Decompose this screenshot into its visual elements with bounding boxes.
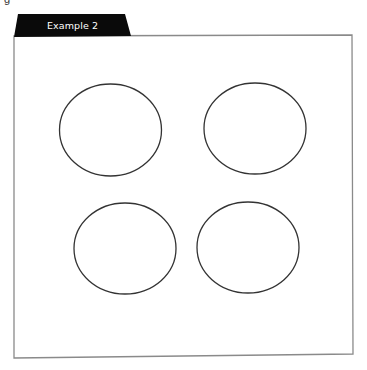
diagram-canvas: g Example 2 — [0, 0, 367, 370]
example-tab-label: Example 2 — [14, 14, 131, 36]
diagram-svg — [0, 0, 367, 370]
frame-border — [14, 35, 353, 358]
